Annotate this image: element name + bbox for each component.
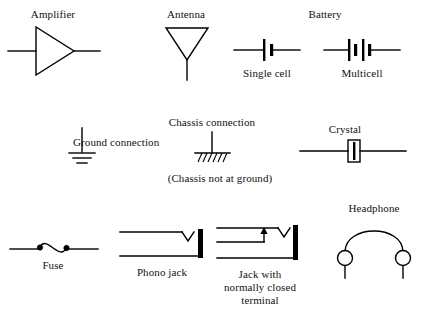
jack-label-line2: normally closed bbox=[224, 281, 296, 293]
jack-normally-closed-icon bbox=[215, 222, 305, 266]
headphone-icon bbox=[334, 218, 414, 280]
battery-group-label: Battery bbox=[308, 8, 341, 21]
ground-connection-label: Ground connection bbox=[73, 136, 159, 149]
antenna-label: Antenna bbox=[167, 8, 205, 21]
battery-multicell-label: Multicell bbox=[341, 67, 382, 80]
amplifier-triangle-icon bbox=[6, 24, 102, 78]
chassis-note-label: (Chassis not at ground) bbox=[168, 172, 273, 185]
crystal-label: Crystal bbox=[329, 123, 361, 136]
phono-jack-icon bbox=[118, 226, 208, 264]
battery-single-cell-icon bbox=[232, 36, 302, 64]
chassis-connection-label: Chassis connection bbox=[169, 116, 255, 129]
jack-label-line1: Jack with bbox=[239, 268, 282, 280]
antenna-triangle-icon bbox=[160, 24, 214, 82]
phono-jack-label: Phono jack bbox=[137, 266, 187, 279]
crystal-icon bbox=[298, 136, 408, 166]
symbol-sheet: Amplifier Antenna Battery Single cell bbox=[0, 0, 421, 318]
amplifier-label: Amplifier bbox=[31, 8, 75, 21]
jack-normally-closed-label: Jack with normally closed terminal bbox=[200, 268, 320, 307]
jack-label-line3: terminal bbox=[241, 294, 278, 306]
battery-multicell-icon bbox=[322, 36, 402, 64]
fuse-label: Fuse bbox=[42, 259, 63, 272]
headphone-label: Headphone bbox=[349, 202, 400, 215]
battery-single-cell-label: Single cell bbox=[243, 67, 291, 80]
fuse-icon bbox=[8, 232, 100, 262]
chassis-connection-icon bbox=[187, 131, 239, 167]
